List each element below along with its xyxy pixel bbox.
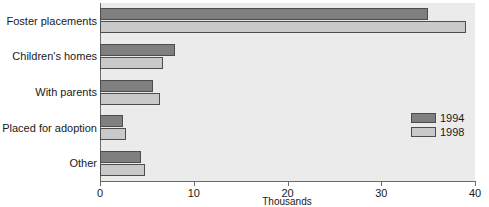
x-tick-mark: [475, 182, 476, 186]
bar-1998-0: [100, 21, 466, 33]
bar-chart: Foster placementsChildren's homesWith pa…: [0, 0, 489, 207]
legend-label-1994: 1994: [440, 112, 464, 125]
x-tick-label: 40: [469, 187, 481, 199]
bar-1994-4: [100, 151, 141, 163]
bar-1994-2: [100, 80, 153, 92]
category-label: Other: [69, 157, 97, 169]
x-tick-mark: [194, 182, 195, 186]
category-label: Foster placements: [7, 15, 97, 27]
legend-label-1998: 1998: [440, 126, 464, 139]
legend-swatch-1994: [411, 113, 436, 123]
x-tick-mark: [288, 182, 289, 186]
x-tick-label: 10: [188, 187, 200, 199]
bar-1994-3: [100, 115, 123, 127]
category-label: With parents: [35, 86, 97, 98]
x-tick-mark: [381, 182, 382, 186]
bar-1998-3: [100, 128, 126, 140]
legend-swatch-1998: [411, 127, 436, 137]
x-tick-label: 0: [97, 187, 103, 199]
x-tick-label: 30: [375, 187, 387, 199]
x-axis-title: Thousands: [262, 196, 311, 207]
bar-1994-0: [100, 8, 428, 20]
category-label: Children's homes: [12, 50, 97, 62]
bar-1998-1: [100, 57, 163, 69]
category-label: Placed for adoption: [2, 122, 97, 134]
bar-1998-4: [100, 164, 145, 176]
bar-1994-1: [100, 44, 175, 56]
bar-1998-2: [100, 93, 160, 105]
x-tick-mark: [100, 182, 101, 186]
